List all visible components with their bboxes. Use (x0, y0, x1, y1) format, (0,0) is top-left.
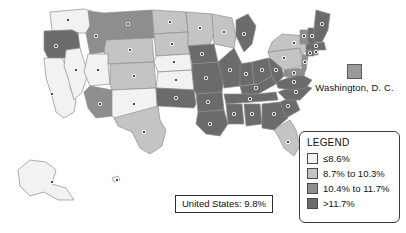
legend-item: >11.7% (307, 196, 399, 211)
map-figure: Washington, D. C. United States: 9.8% LE… (0, 0, 406, 233)
united-states-total-box: United States: 9.8% (175, 195, 273, 213)
capital-dot-wy (129, 49, 131, 51)
legend-title: LEGEND (307, 137, 399, 148)
capital-dot-wa (67, 19, 69, 21)
capital-dot-md (293, 72, 295, 74)
legend-item: ≤8.6% (307, 151, 399, 166)
capital-dot-ar (207, 101, 209, 103)
capital-dot-ms (233, 113, 235, 115)
capital-dot-hi (116, 179, 118, 181)
capital-dot-ca (51, 93, 53, 95)
capital-dot-pa (283, 57, 285, 59)
united-states-total-label: United States: 9.8% (182, 198, 266, 209)
capital-dot-oh (261, 69, 263, 71)
capital-dot-nd (169, 21, 171, 23)
capital-dot-nh (311, 35, 313, 37)
capital-dot-ri (315, 51, 317, 53)
state-shapes (18, 9, 330, 200)
capital-dot-ga (273, 113, 275, 115)
capital-dot-ak (51, 181, 53, 183)
capital-dot-fl (287, 141, 289, 143)
capital-dot-ia (201, 53, 203, 55)
capital-dot-va (293, 81, 295, 83)
capital-dot-ks (175, 79, 177, 81)
state-ak (18, 160, 74, 200)
legend-swatch-icon (307, 168, 318, 179)
state-ok (156, 88, 196, 118)
legend-swatch-icon (307, 183, 318, 194)
capital-dot-il (229, 69, 231, 71)
capital-dot-mn (199, 27, 201, 29)
capital-dot-co (133, 75, 135, 77)
capital-dot-az (99, 103, 101, 105)
capital-dot-ut (97, 69, 99, 71)
washington-dc-callout: Washington, D. C. (305, 64, 404, 93)
washington-dc-swatch-icon (347, 64, 362, 79)
capital-dot-ma (315, 45, 317, 47)
state-dc (299, 73, 302, 76)
capital-dot-ne (173, 61, 175, 63)
capital-dot-mi (243, 33, 245, 35)
legend-item-label: ≤8.6% (323, 154, 350, 164)
legend: LEGEND ≤8.6%8.7% to 10.3%10.4% to 11.7%>… (299, 131, 400, 223)
capital-dot-mo (205, 77, 207, 79)
state-id (86, 11, 106, 54)
capital-dot-wi (223, 31, 225, 33)
legend-rows: ≤8.6%8.7% to 10.3%10.4% to 11.7%>11.7% (307, 151, 399, 211)
legend-item: 10.4% to 11.7% (307, 181, 399, 196)
capital-dot-me (321, 23, 323, 25)
capital-dot-mt (127, 23, 129, 25)
capital-dot-la (209, 123, 211, 125)
capital-dot-ok (175, 97, 177, 99)
capital-dot-nc (295, 91, 297, 93)
capital-dot-nj (304, 61, 306, 63)
legend-swatch-icon (307, 198, 318, 209)
capital-dot-al (251, 113, 253, 115)
capital-dot-nm (133, 103, 135, 105)
capital-dot-id (95, 35, 97, 37)
legend-swatch-icon (307, 153, 318, 164)
capital-dot-or (55, 45, 57, 47)
capital-dot-tn (249, 98, 251, 100)
state-wa (50, 9, 92, 33)
capital-dot-vt (303, 35, 305, 37)
capital-dot-sc (287, 105, 289, 107)
capital-dot-wv (275, 69, 277, 71)
capital-dot-in (245, 73, 247, 75)
capital-dot-tx (143, 131, 145, 133)
state-az (84, 86, 112, 118)
capital-dot-ky (255, 87, 257, 89)
legend-item-label: 10.4% to 11.7% (323, 184, 389, 194)
state-la (196, 110, 228, 136)
legend-item-label: >11.7% (323, 199, 355, 209)
legend-item-label: 8.7% to 10.3% (323, 169, 385, 179)
capital-dot-sd (171, 43, 173, 45)
legend-item: 8.7% to 10.3% (307, 166, 399, 181)
capital-dot-ny (293, 42, 295, 44)
state-mi (236, 14, 256, 52)
capital-dot-ct (309, 52, 311, 54)
washington-dc-label: Washington, D. C. (305, 82, 404, 93)
capital-dot-nv (75, 69, 77, 71)
